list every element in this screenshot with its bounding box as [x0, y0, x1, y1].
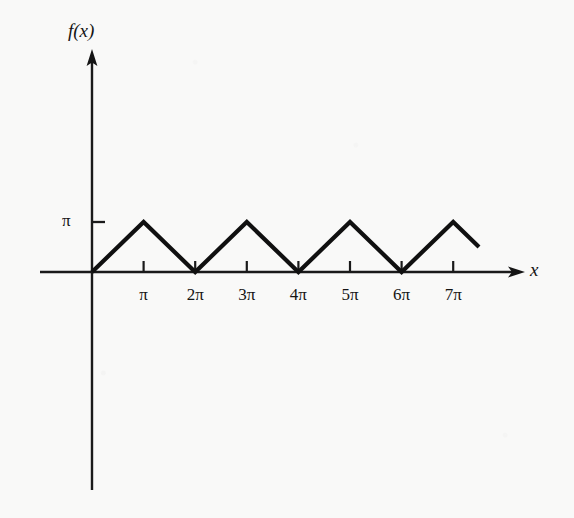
x-tick-label-5pi: 5π: [341, 285, 358, 305]
y-axis-label: f(x): [68, 20, 94, 42]
x-tick-label-7pi: 7π: [445, 285, 462, 305]
x-tick-label-4pi: 4π: [290, 285, 307, 305]
figure-container: f(x) x π π 2π 3π 4π 5π 6π 7π: [0, 0, 574, 518]
triangular-wave-plot: [0, 0, 574, 518]
x-tick-label-6pi: 6π: [393, 285, 410, 305]
triangular-wave-curve: [92, 222, 479, 272]
x-tick-label-1pi: π: [139, 285, 148, 305]
x-tick-label-3pi: 3π: [238, 285, 255, 305]
x-axis-label: x: [530, 259, 538, 281]
y-tick-label-pi: π: [62, 211, 71, 231]
x-tick-label-2pi: 2π: [187, 285, 204, 305]
